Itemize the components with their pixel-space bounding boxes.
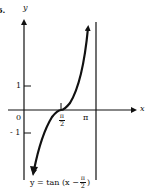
equation-prefix: y = tan (x − — [30, 178, 79, 187]
y-tick-label-neg1: - 1 — [10, 129, 20, 137]
problem-number: 6. — [0, 6, 5, 14]
origin-label: 0 — [16, 114, 21, 122]
equation-fraction: π 2 — [80, 175, 86, 190]
x-tick-label-pi-half: π 2 — [59, 113, 65, 128]
x-axis-label: x — [140, 105, 145, 113]
equation-frac-num: π — [81, 175, 85, 182]
frac-numerator: π — [60, 113, 64, 120]
graph-canvas — [0, 0, 145, 192]
y-tick-label-1: 1 — [16, 82, 21, 90]
tan-curve — [34, 28, 88, 170]
x-tick-label-pi: π — [83, 114, 88, 122]
curve-equation: y = tan (x − π 2 ) — [30, 175, 90, 190]
frac-denominator: 2 — [60, 121, 64, 128]
equation-suffix: ) — [87, 178, 90, 187]
equation-frac-den: 2 — [81, 183, 85, 190]
y-axis-label: y — [23, 4, 28, 12]
